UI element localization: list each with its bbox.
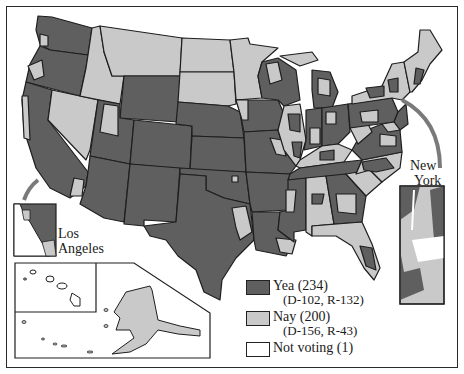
region-colorado [130, 120, 192, 170]
alaska-hawaii-inset [15, 263, 210, 358]
los-angeles-arrow [24, 180, 38, 200]
new-york-label-line1: New [410, 158, 441, 173]
region-ohio [322, 104, 350, 146]
los-angeles-label-line2: Angeles [58, 241, 104, 256]
region-new-york [352, 62, 410, 104]
legend-label-not-voting: Not voting (1) [273, 341, 353, 355]
new-york-inset [400, 186, 444, 304]
new-york-label: New York [410, 158, 441, 188]
legend-item-not-voting: Not voting (1) [246, 341, 406, 357]
not-voting-swatch [246, 342, 270, 357]
aleutian-islands [22, 309, 108, 354]
region-arizona [80, 156, 130, 222]
legend-label-nay: Nay (200) [273, 310, 357, 324]
yea-swatch [246, 280, 270, 295]
legend-item-yea: Yea (234) (D-102, R-132) [246, 279, 406, 306]
region-north-dakota [180, 38, 234, 72]
legend-detail-yea: (D-102, R-132) [273, 293, 364, 306]
legend-item-nay: Nay (200) (D-156, R-43) [246, 310, 406, 337]
los-angeles-label-line1: Los [58, 226, 104, 241]
region-kansas [190, 136, 246, 172]
nay-swatch [246, 311, 270, 326]
region-new-mexico [124, 164, 180, 226]
region-montana [100, 26, 182, 76]
region-south-dakota [178, 72, 236, 106]
hawaii [24, 270, 81, 306]
legend-label-yea: Yea (234) [273, 279, 364, 293]
los-angeles-inset [14, 204, 56, 256]
alaska [112, 286, 200, 354]
legend: Yea (234) (D-102, R-132) Nay (200) (D-15… [246, 279, 406, 361]
legend-detail-nay: (D-156, R-43) [273, 324, 357, 337]
region-arkansas [246, 172, 290, 212]
new-york-label-line2: York [410, 173, 441, 188]
region-wyoming [120, 76, 180, 122]
los-angeles-label: Los Angeles [58, 226, 104, 256]
region-new-england [404, 30, 442, 92]
